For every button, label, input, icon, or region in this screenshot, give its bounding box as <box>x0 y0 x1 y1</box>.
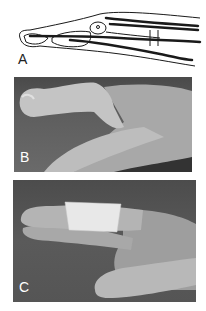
finger-anatomy-illustration <box>10 2 202 70</box>
panel-label-c: C <box>19 280 29 294</box>
panel-a-drawing <box>10 2 202 70</box>
splinted-finger-photo <box>13 180 196 302</box>
panel-label-a: A <box>18 52 27 66</box>
panel-label-b: B <box>20 150 29 164</box>
hand-deformity-photo <box>14 77 192 172</box>
panel-c-photo: C <box>13 180 196 302</box>
panel-b-photo: B <box>14 77 192 172</box>
